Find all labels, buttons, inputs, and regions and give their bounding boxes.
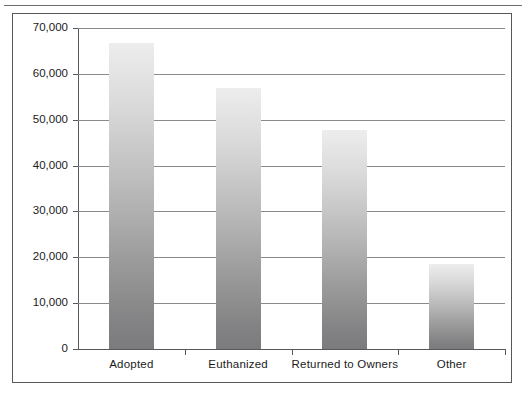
y-tick-label-60000: 60,000 xyxy=(8,67,68,79)
bar-euthanized[interactable] xyxy=(216,88,261,349)
x-axis-label-returned-to-owners: Returned to Owners xyxy=(292,358,399,370)
x-axis-label-other: Other xyxy=(398,358,505,370)
y-tick-label-30000: 30,000 xyxy=(8,204,68,216)
y-tick-mark-50000 xyxy=(73,120,78,121)
x-tick-separator-2 xyxy=(292,349,293,355)
x-axis-label-euthanized: Euthanized xyxy=(185,358,292,370)
y-tick-label-70000: 70,000 xyxy=(8,21,68,33)
y-tick-label-40000: 40,000 xyxy=(8,159,68,171)
y-tick-label-20000: 20,000 xyxy=(8,250,68,262)
x-tick-separator-1 xyxy=(185,349,186,355)
y-tick-mark-10000 xyxy=(73,303,78,304)
x-axis-label-adopted: Adopted xyxy=(78,358,185,370)
x-tick-separator-end xyxy=(505,349,506,355)
y-tick-mark-60000 xyxy=(73,74,78,75)
page-top-rule xyxy=(4,5,522,6)
y-tick-label-0: 0 xyxy=(8,342,68,354)
y-tick-mark-30000 xyxy=(73,211,78,212)
gridline-70000 xyxy=(78,28,505,29)
y-tick-label-10000: 10,000 xyxy=(8,296,68,308)
page-canvas: 010,00020,00030,00040,00050,00060,00070,… xyxy=(0,0,526,393)
y-tick-mark-20000 xyxy=(73,257,78,258)
bar-adopted[interactable] xyxy=(109,43,154,349)
y-tick-mark-40000 xyxy=(73,166,78,167)
x-tick-separator-3 xyxy=(398,349,399,355)
y-tick-label-50000: 50,000 xyxy=(8,113,68,125)
plot-area xyxy=(78,28,505,349)
y-tick-mark-0 xyxy=(73,349,78,350)
bar-returned-to-owners[interactable] xyxy=(322,130,367,349)
bar-other[interactable] xyxy=(429,264,474,349)
y-tick-mark-70000 xyxy=(73,28,78,29)
